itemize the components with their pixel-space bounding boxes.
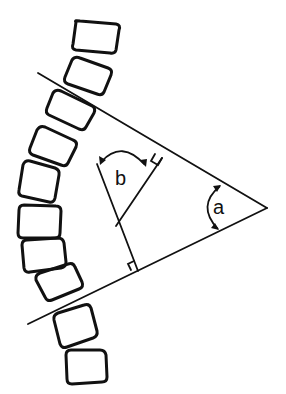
vertebra-5	[19, 161, 59, 202]
angle-a-label: a	[213, 197, 224, 217]
vertebra-4	[29, 126, 76, 165]
arrowhead-icon	[211, 223, 219, 230]
angle-b-label: b	[115, 168, 126, 188]
cobb-angle-diagram: a b	[0, 0, 286, 394]
vertebra-1	[72, 21, 119, 54]
arrowhead-icon	[140, 159, 147, 167]
angle-b-arc	[99, 151, 147, 167]
vertebra-3	[46, 90, 94, 129]
vertebra-9	[54, 304, 97, 347]
vertebra-2	[64, 57, 111, 94]
spine-vertebrae	[18, 21, 120, 384]
right-angle-marker-upper	[151, 154, 162, 165]
vertebra-10	[66, 350, 107, 384]
vertebra-6	[18, 205, 61, 238]
diagram-canvas	[0, 0, 286, 394]
right-angle-marker-lower	[128, 261, 134, 270]
